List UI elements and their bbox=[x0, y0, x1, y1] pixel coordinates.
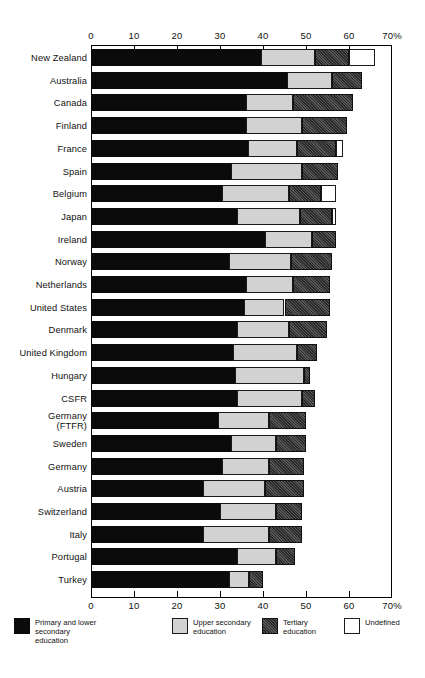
bar-row: Norway bbox=[0, 252, 425, 271]
axis-tick-label: 20 bbox=[172, 600, 183, 611]
bar-segment-tertiary bbox=[304, 367, 310, 384]
bar-row: United States bbox=[0, 298, 425, 317]
bar-segment-primary bbox=[91, 435, 231, 452]
bar-segment-primary bbox=[91, 117, 246, 134]
axis-tick-label: 10 bbox=[129, 30, 140, 41]
stacked-bar bbox=[91, 390, 315, 407]
bar-row: CSFR bbox=[0, 389, 425, 408]
bar-segment-tertiary bbox=[302, 117, 347, 134]
legend-swatch-tertiary bbox=[262, 618, 278, 634]
axis-tick bbox=[349, 591, 350, 597]
stacked-bar bbox=[91, 140, 343, 157]
stacked-bar bbox=[91, 163, 338, 180]
bar-row: New Zealand bbox=[0, 48, 425, 67]
bar-segment-upper bbox=[231, 435, 276, 452]
legend-item-undefined: Undefined bbox=[344, 618, 400, 634]
bar-segment-primary bbox=[91, 367, 235, 384]
legend-item-tertiary: Tertiary education bbox=[262, 618, 316, 636]
bar-segment-upper bbox=[246, 276, 293, 293]
legend-label: Upper secondary education bbox=[193, 618, 251, 636]
axis-tick-label: 0 bbox=[88, 600, 93, 611]
axis-tick-label: 0 bbox=[88, 30, 93, 41]
bar-segment-upper bbox=[246, 117, 302, 134]
bar-segment-tertiary bbox=[289, 185, 321, 202]
bar-segment-primary bbox=[91, 503, 220, 520]
bar-row: Japan bbox=[0, 207, 425, 226]
bar-row-label: Germany bbox=[0, 462, 87, 472]
bar-segment-upper bbox=[220, 503, 276, 520]
axis-tick-label: 20 bbox=[172, 30, 183, 41]
bar-row-label: Canada bbox=[0, 98, 87, 108]
bar-segment-upper bbox=[229, 253, 291, 270]
bar-row-label: Ireland bbox=[0, 235, 87, 245]
bar-row-label: Hungary bbox=[0, 371, 87, 381]
bar-segment-upper bbox=[203, 526, 270, 543]
stacked-bar bbox=[91, 458, 304, 475]
bar-row: Belgium bbox=[0, 184, 425, 203]
bar-segment-primary bbox=[91, 72, 287, 89]
axis-tick-label: 70% bbox=[382, 30, 402, 41]
stacked-bar bbox=[91, 435, 306, 452]
bar-row: Italy bbox=[0, 525, 425, 544]
bar-row: Austria bbox=[0, 479, 425, 498]
stacked-bar bbox=[91, 49, 375, 66]
bar-row: Sweden bbox=[0, 434, 425, 453]
bar-row: Hungary bbox=[0, 366, 425, 385]
bar-segment-upper bbox=[237, 208, 299, 225]
bar-segment-tertiary bbox=[269, 526, 301, 543]
bar-row-label: United States bbox=[0, 303, 87, 313]
bar-row: Ireland bbox=[0, 230, 425, 249]
bar-segment-upper bbox=[218, 412, 270, 429]
stacked-bar bbox=[91, 276, 330, 293]
axis-tick bbox=[306, 591, 307, 597]
bar-segment-primary bbox=[91, 185, 222, 202]
bar-row-label: Switzerland bbox=[0, 507, 87, 517]
bar-row: Germany (FTFR) bbox=[0, 411, 425, 430]
bar-row-label: CSFR bbox=[0, 394, 87, 404]
bar-row: Portugal bbox=[0, 547, 425, 566]
bar-segment-upper bbox=[229, 571, 249, 588]
stacked-bar bbox=[91, 367, 310, 384]
axis-tick-label: 50 bbox=[301, 30, 312, 41]
bar-row-label: Italy bbox=[0, 530, 87, 540]
bar-segment-tertiary bbox=[276, 503, 302, 520]
stacked-bar bbox=[91, 526, 302, 543]
bar-row: United Kingdom bbox=[0, 343, 425, 362]
bar-segment-primary bbox=[91, 548, 237, 565]
legend-swatch-undefined bbox=[344, 618, 360, 634]
stacked-bar bbox=[91, 185, 336, 202]
axis-tick bbox=[220, 591, 221, 597]
bar-segment-upper bbox=[265, 231, 312, 248]
bar-row: Australia bbox=[0, 71, 425, 90]
axis-tick-label: 70% bbox=[382, 600, 402, 611]
bar-segment-primary bbox=[91, 231, 265, 248]
bar-segment-tertiary bbox=[302, 390, 315, 407]
bar-row-label: Australia bbox=[0, 76, 87, 86]
bar-segment-tertiary bbox=[297, 344, 316, 361]
stacked-bar bbox=[91, 231, 336, 248]
bar-segment-upper bbox=[231, 163, 302, 180]
bar-segment-primary bbox=[91, 140, 248, 157]
bar-row: Switzerland bbox=[0, 502, 425, 521]
stacked-bar bbox=[91, 321, 328, 338]
axis-tick-label: 40 bbox=[258, 600, 269, 611]
bar-row-label: Germany (FTFR) bbox=[0, 411, 87, 431]
legend-swatch-primary bbox=[14, 618, 30, 634]
axis-tick-label: 60 bbox=[344, 30, 355, 41]
bar-row-label: Norway bbox=[0, 257, 87, 267]
bar-segment-tertiary bbox=[297, 140, 336, 157]
stacked-bar bbox=[91, 94, 353, 111]
bar-segment-upper bbox=[244, 299, 285, 316]
bar-segment-primary bbox=[91, 276, 246, 293]
legend-item-upper: Upper secondary education bbox=[172, 618, 251, 636]
bar-row-label: Japan bbox=[0, 212, 87, 222]
bar-row-label: Denmark bbox=[0, 325, 87, 335]
bar-row-label: Sweden bbox=[0, 439, 87, 449]
bar-segment-tertiary bbox=[276, 548, 295, 565]
bar-segment-primary bbox=[91, 94, 246, 111]
legend-label: Undefined bbox=[365, 618, 400, 627]
stacked-bar bbox=[91, 72, 362, 89]
bar-row-label: Finland bbox=[0, 121, 87, 131]
bar-row: Germany bbox=[0, 457, 425, 476]
bar-segment-upper bbox=[222, 458, 269, 475]
